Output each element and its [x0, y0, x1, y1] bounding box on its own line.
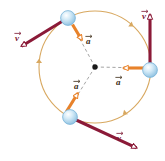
vector-arrow-overbar-icon	[73, 79, 81, 83]
figure-canvas	[0, 0, 165, 161]
velocity-label-bottom-right: v	[117, 131, 121, 143]
particle-top-left	[61, 11, 76, 26]
vector-arrow-overbar-icon	[115, 75, 123, 79]
radius-lines	[72, 28, 146, 104]
velocity-vector-bottom-right	[74, 119, 137, 148]
velocity-label-right: v	[142, 9, 146, 21]
acceleration-label-right: a	[116, 75, 121, 87]
particle-bottom-left	[63, 110, 78, 125]
velocity-label-top-left: v	[15, 31, 19, 43]
center-dot	[92, 64, 97, 69]
acceleration-vector-top	[73, 25, 82, 41]
acceleration-label-top: a	[86, 34, 91, 46]
circular-motion-figure: v v v a	[0, 0, 165, 161]
path-direction-arrow-left	[36, 59, 42, 63]
vector-arrow-overbar-icon	[116, 131, 124, 135]
vector-arrow-overbar-icon	[141, 9, 149, 13]
particle-right	[143, 63, 158, 78]
acceleration-label-bottom: a	[74, 79, 79, 91]
acceleration-vector-bottom	[67, 93, 78, 111]
vector-arrow-overbar-icon	[14, 31, 22, 35]
velocity-vector-top-left	[22, 19, 67, 46]
vector-arrow-overbar-icon	[85, 34, 93, 38]
acceleration-vectors	[67, 25, 145, 112]
